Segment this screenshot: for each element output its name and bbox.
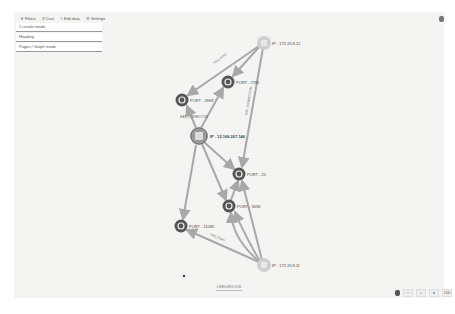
svg-text:PORT - 3968: PORT - 3968 <box>190 98 214 103</box>
svg-text:HAS_CONNECTION: HAS_CONNECTION <box>180 115 208 119</box>
zoom-out-button[interactable]: − <box>403 289 413 297</box>
node-port-2761[interactable]: PORT - 2761 <box>222 76 261 89</box>
logo: LINKURIOUS <box>212 284 246 292</box>
node-port-3036[interactable]: PORT - 3036 <box>223 200 262 213</box>
node-ip-172-19-8-12[interactable]: IP - 172.19.8.12 <box>257 36 301 50</box>
graph-view[interactable]: HAS_PORT HAS_CONNECTION HAS_CONNECTION H… <box>0 0 455 314</box>
cursor-dot <box>183 275 185 277</box>
node-port-3968[interactable]: PORT - 3968 <box>176 94 215 107</box>
zoom-level[interactable]: 100 <box>442 289 452 297</box>
svg-text:PORT - 3036: PORT - 3036 <box>237 204 261 209</box>
svg-text:PORT - 25: PORT - 25 <box>247 172 267 177</box>
info-button[interactable] <box>395 290 400 296</box>
zoom-controls: − + ● 100 <box>395 289 452 297</box>
node-port-25[interactable]: PORT - 25 <box>233 168 267 181</box>
svg-text:IP - 172.19.8.11: IP - 172.19.8.11 <box>272 263 301 268</box>
svg-text:PORT - 11081: PORT - 11081 <box>189 224 215 229</box>
svg-text:HAS_PORT: HAS_PORT <box>212 52 228 65</box>
svg-text:IP - 12.166.207.146: IP - 12.166.207.146 <box>210 134 246 139</box>
zoom-in-button[interactable]: + <box>416 289 426 297</box>
node-ip-172-19-8-11[interactable]: IP - 172.19.8.11 <box>257 258 301 272</box>
svg-text:PORT - 2761: PORT - 2761 <box>236 80 260 85</box>
node-port-11081[interactable]: PORT - 11081 <box>175 220 216 233</box>
svg-text:IP - 172.19.8.12: IP - 172.19.8.12 <box>272 41 301 46</box>
node-ip-12-166-207-146[interactable]: IP - 12.166.207.146 <box>190 127 246 145</box>
fit-button[interactable]: ● <box>429 289 439 297</box>
